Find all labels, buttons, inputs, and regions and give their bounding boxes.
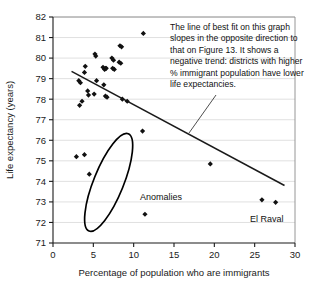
y-tick-label-73: 73 [35, 196, 46, 207]
scatter-chart-figure: 717273747576777879808182051015202530Perc… [0, 0, 313, 294]
chart-canvas: 717273747576777879808182051015202530Perc… [0, 0, 313, 294]
y-tick-label-80: 80 [35, 52, 46, 63]
x-tick-label-0: 0 [50, 249, 55, 260]
y-tick-label-81: 81 [35, 32, 46, 43]
x-tick-label-10: 10 [128, 249, 139, 260]
trend-note-line: % immigrant population have lower [170, 68, 304, 78]
y-tick-label-77: 77 [35, 114, 46, 125]
anomalies-label: Anomalies [140, 192, 183, 202]
y-tick-label-76: 76 [35, 135, 46, 146]
el-raval-label: El Raval [250, 214, 284, 224]
y-axis-title: Life expectancy (years) [4, 81, 15, 179]
x-tick-label-30: 30 [290, 249, 301, 260]
trend-note-line: The line of best fit on this graph [170, 22, 290, 32]
trend-note-line: slopes in the opposite direction to [170, 33, 298, 43]
x-axis-title: Percentage of population who are immigra… [78, 267, 269, 278]
x-tick-label-15: 15 [169, 249, 180, 260]
trend-note-line: negative trend: districts with higher [170, 56, 302, 66]
trend-note-line: that on Figure 13. It shows a [170, 45, 279, 55]
x-tick-label-5: 5 [91, 249, 96, 260]
x-tick-label-25: 25 [249, 249, 260, 260]
y-tick-label-79: 79 [35, 73, 46, 84]
y-tick-label-72: 72 [35, 217, 46, 228]
y-tick-label-75: 75 [35, 155, 46, 166]
y-tick-label-74: 74 [35, 176, 46, 187]
y-tick-label-78: 78 [35, 94, 46, 105]
trend-note-line: life expectancies. [170, 79, 236, 89]
y-tick-label-71: 71 [35, 237, 46, 248]
y-tick-label-82: 82 [35, 11, 46, 22]
x-tick-label-20: 20 [209, 249, 220, 260]
